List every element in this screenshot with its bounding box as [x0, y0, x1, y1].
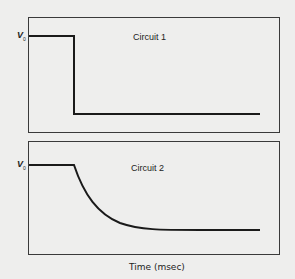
- circuit-1-title: Circuit 1: [133, 32, 166, 42]
- circuit-2-trace: [29, 165, 260, 230]
- circuit-2-frame: [29, 142, 280, 255]
- circuit-2-title: Circuit 2: [131, 163, 164, 173]
- circuit-1-v0-label: V0: [17, 30, 26, 42]
- circuit-2-v0-label: V0: [17, 159, 26, 171]
- circuit-1-trace: [29, 36, 260, 114]
- x-axis-label: Time (msec): [129, 262, 185, 272]
